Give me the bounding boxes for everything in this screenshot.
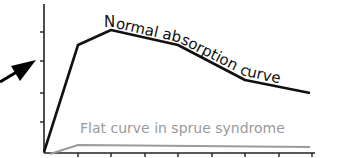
normal-curve-label: Normal absorption curve: [104, 13, 283, 87]
arrow-icon: [0, 60, 36, 82]
absorption-chart: Normal absorption curve Flat curve in sp…: [0, 0, 337, 158]
flat-curve-label: Flat curve in sprue syndrome: [80, 120, 285, 136]
